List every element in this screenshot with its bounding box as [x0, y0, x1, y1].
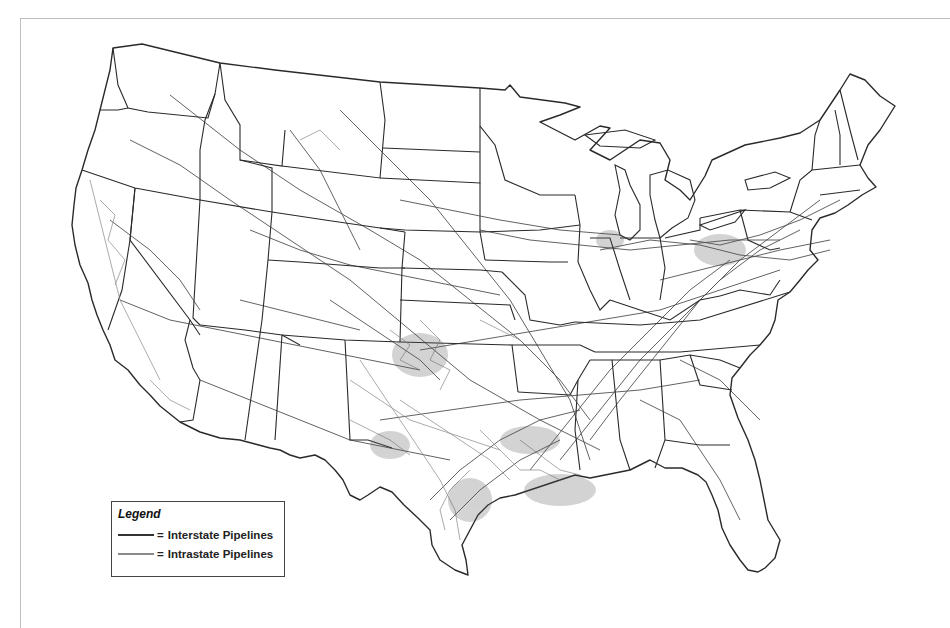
legend-equals: = — [157, 529, 164, 541]
interstate-pipelines — [110, 95, 840, 520]
legend-label: Intrastate Pipelines — [168, 548, 273, 560]
intrastate-line-swatch — [118, 553, 154, 555]
legend-title: Legend — [118, 507, 278, 521]
dense-clusters — [370, 230, 746, 522]
legend-label: Interstate Pipelines — [168, 529, 273, 541]
intrastate-pipelines — [90, 130, 580, 540]
great-lakes — [585, 130, 790, 240]
legend-item-interstate: = Interstate Pipelines — [118, 525, 278, 544]
legend-equals: = — [157, 548, 164, 560]
legend: Legend = Interstate Pipelines = Intrasta… — [111, 501, 285, 577]
legend-item-intrastate: = Intrastate Pipelines — [118, 544, 278, 563]
interstate-line-swatch — [118, 534, 154, 536]
